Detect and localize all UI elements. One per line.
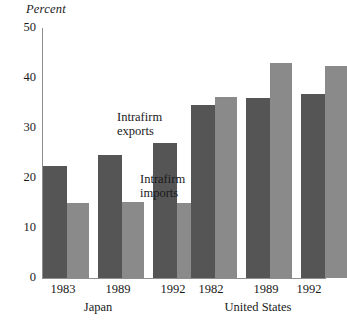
group-label-united-states: United States: [203, 300, 313, 315]
bar-japan-1992-exports: [153, 143, 177, 278]
x-tick-us-1992: 1992: [291, 282, 327, 297]
bar-japan-1983-exports: [43, 166, 67, 278]
bar-us-1989-imports: [270, 63, 292, 278]
annotation-intrafirm-imports: Intrafirm imports: [140, 172, 185, 201]
x-axis-line: [42, 278, 326, 279]
bar-japan-1983-imports: [67, 203, 89, 278]
x-tick-us-1989: 1989: [236, 282, 296, 297]
bar-us-1992-imports: [325, 66, 347, 278]
y-axis-title: Percent: [26, 2, 66, 17]
x-tick-us-1982: 1982: [181, 282, 241, 297]
x-tick-japan-1989: 1989: [88, 282, 148, 297]
annotation-imports-line-2: imports: [140, 186, 185, 200]
bar-us-1989-exports: [246, 98, 270, 278]
plot-area: [42, 28, 326, 278]
bar-us-1982-imports: [215, 97, 237, 278]
x-tick-japan-1983: 1983: [33, 282, 93, 297]
annotation-imports-line-1: Intrafirm: [140, 172, 185, 186]
annotation-exports-line-2: exports: [117, 124, 162, 138]
annotation-intrafirm-exports: Intrafirm exports: [117, 110, 162, 139]
bar-us-1982-exports: [191, 105, 215, 278]
group-label-japan: Japan: [58, 300, 138, 315]
annotation-exports-line-1: Intrafirm: [117, 110, 162, 124]
bar-japan-1989-imports: [122, 202, 144, 278]
bar-us-1992-exports: [301, 94, 325, 278]
bar-japan-1989-exports: [98, 155, 122, 278]
